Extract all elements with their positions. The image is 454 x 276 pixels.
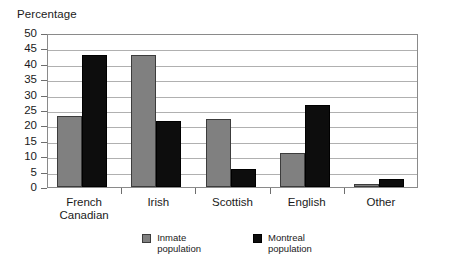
y-axis-tick-label: 30 — [24, 90, 37, 102]
bar — [131, 55, 156, 187]
plot-area — [47, 34, 418, 188]
bar — [82, 55, 107, 187]
bar — [231, 169, 256, 187]
legend-item: Montreal population — [253, 232, 312, 254]
y-axis-tick-label: 10 — [24, 151, 37, 163]
y-axis-tick-label: 35 — [24, 74, 37, 86]
bar — [305, 105, 330, 187]
bar — [206, 119, 231, 187]
legend-label: Montreal population — [268, 232, 312, 254]
chart-legend: Inmate populationMontreal population — [0, 232, 454, 254]
x-axis-tick-mark — [121, 188, 122, 194]
gridline — [48, 50, 417, 51]
y-axis-title: Percentage — [17, 8, 77, 20]
bar — [354, 184, 379, 187]
x-axis-category-label: French Canadian — [47, 196, 121, 222]
bar — [280, 153, 305, 187]
x-axis-category-label: Scottish — [195, 196, 269, 209]
y-axis-tick-label: 25 — [24, 105, 37, 117]
gray-swatch-icon — [142, 234, 151, 243]
y-axis-tick-label: 15 — [24, 136, 37, 148]
bar — [379, 179, 404, 187]
x-axis-category-label: English — [270, 196, 344, 209]
y-axis-tick-label: 50 — [24, 28, 37, 40]
y-axis-tick-label: 5 — [31, 167, 37, 179]
y-axis-tick-label: 20 — [24, 120, 37, 132]
x-axis-category-label: Other — [344, 196, 418, 209]
x-axis-tick-mark — [344, 188, 345, 194]
bar-chart-figure: Percentage 50454035302520151050 French C… — [0, 0, 454, 276]
x-axis-tick-mark — [195, 188, 196, 194]
plot-inner — [48, 35, 417, 187]
y-axis-tick-label: 0 — [31, 182, 37, 194]
bar — [156, 121, 181, 187]
y-axis-tick-label: 40 — [24, 59, 37, 71]
black-swatch-icon — [253, 234, 262, 243]
y-axis-tick-label: 45 — [24, 43, 37, 55]
legend-item: Inmate population — [142, 232, 201, 254]
y-axis-tick-mark — [41, 188, 47, 189]
x-axis-tick-mark — [270, 188, 271, 194]
x-axis-category-label: Irish — [121, 196, 195, 209]
bar — [57, 116, 82, 187]
legend-label: Inmate population — [157, 232, 201, 254]
